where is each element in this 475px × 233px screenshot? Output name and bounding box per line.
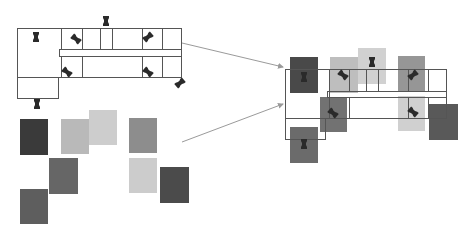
camera-icon [103,16,109,26]
coverage-swatches [20,110,189,224]
swatch-g [129,158,157,193]
camera-icon [34,99,40,109]
camera-icon [174,77,186,88]
tile-g [398,96,425,131]
swatch-d [49,158,78,194]
swatch-h [160,167,189,203]
camera-icon [33,32,39,42]
swatch-b [61,119,89,154]
left-room-main [18,29,62,78]
camera-icon [142,66,154,77]
camera-icon [61,66,73,77]
tile-h [429,104,458,140]
mapping-arrows [182,43,283,142]
left-room-lower [18,78,59,99]
swatch-f [129,118,157,153]
left-floor-plan [18,29,182,99]
swatch-e [20,189,48,224]
mapping-arrow [182,104,283,142]
camera-icon [70,33,82,44]
mapping-arrow [182,43,283,67]
corridor-bar [60,50,182,57]
swatch-a [20,119,48,155]
diagram-canvas [0,0,475,233]
swatch-c [89,110,117,145]
camera-icon [142,31,154,42]
